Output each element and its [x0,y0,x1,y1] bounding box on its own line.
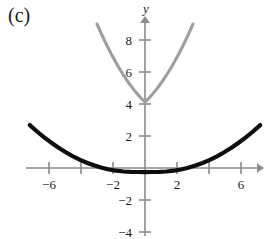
axes-group [26,16,264,236]
y-axis-label: y [141,1,149,16]
y-tick-label--4: −4 [118,225,132,239]
x-tick-label--6: −6 [42,177,56,192]
x-axis-arrowhead [257,163,264,173]
y-tick-label--2: −2 [118,193,132,208]
x-tick-label--2: −2 [106,177,120,192]
parabola-plot: −6 −2 2 6 8 6 4 2 −2 −4 y [0,0,267,239]
figure-panel: (c) −6 −2 2 6 [0,0,267,239]
y-tick-labels: 8 6 4 2 −2 −4 [118,33,132,239]
y-tick-label-4: 4 [126,97,133,112]
x-tick-labels: −6 −2 2 6 [42,177,245,192]
y-tick-label-2: 2 [126,129,133,144]
x-tick-label-6: 6 [238,177,245,192]
y-axis-arrowhead [140,16,150,23]
y-tick-label-8: 8 [126,33,133,48]
x-tick-label-2: 2 [174,177,181,192]
